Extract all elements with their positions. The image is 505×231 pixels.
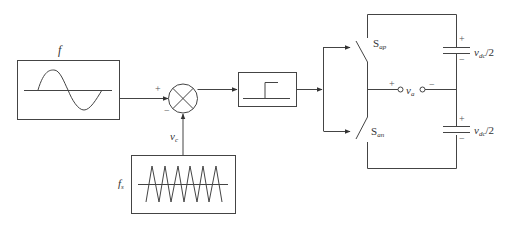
lower-capacitor-subscript: dc (479, 130, 486, 138)
output-voltage-subscript: a (411, 90, 415, 98)
lower-capacitor-plus-sign: + (459, 114, 465, 124)
lower-capacitor-tail: /2 (486, 124, 495, 136)
summing-plus-sign: + (155, 84, 161, 94)
summing-minus-sign: − (164, 106, 170, 116)
carrier-signal-subscript: c (175, 136, 178, 144)
lower-switch-subscript: an (377, 131, 384, 139)
upper-switch-label: Sap (373, 38, 386, 51)
step-function-icon (243, 83, 278, 99)
bottom-rail (368, 135, 457, 169)
carrier-signal-label: vc (170, 131, 178, 144)
output-voltage-label: va (406, 85, 414, 98)
lower-switch (356, 117, 368, 139)
reference-frequency-label: f (58, 44, 61, 56)
carrier-frequency-label: fs (118, 178, 124, 191)
upper-capacitor-subscript: dc (479, 52, 486, 60)
diagram-lines (0, 0, 505, 231)
inverter-diagram: f + − vc fs Sap San + va − + − vdc/2 + −… (0, 0, 505, 231)
upper-capacitor-tail: /2 (486, 46, 495, 58)
upper-capacitor-minus-sign: − (459, 55, 465, 65)
upper-switch (356, 41, 368, 62)
output-terminal-plus (398, 87, 403, 92)
upper-capacitor-label: vdc/2 (474, 47, 494, 60)
output-minus-sign: − (429, 80, 435, 90)
comparator-block (239, 73, 297, 107)
output-plus-sign: + (389, 79, 395, 89)
carrier-frequency-subscript: s (121, 183, 124, 191)
upper-switch-subscript: ap (379, 43, 386, 51)
upper-capacitor-plus-sign: + (459, 34, 465, 44)
lower-switch-label: San (371, 126, 384, 139)
lower-capacitor-minus-sign: − (459, 134, 465, 144)
lower-capacitor-label: vdc/2 (474, 125, 494, 138)
reference-frequency-text: f (58, 43, 61, 57)
output-terminal-minus (420, 87, 425, 92)
